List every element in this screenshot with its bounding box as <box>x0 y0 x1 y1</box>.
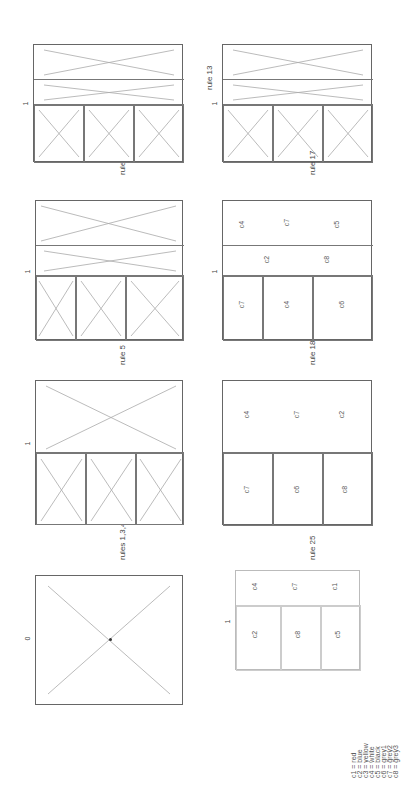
cell-label: c1 <box>331 583 338 590</box>
cell-label: c4 <box>283 301 290 308</box>
rule-label-18: rule 18 <box>308 341 317 365</box>
rule-label-17: rule 17 <box>308 151 317 175</box>
diagonals-icon <box>36 201 182 339</box>
step-label-0: 0 <box>24 637 31 641</box>
cell-label: c7 <box>283 219 290 226</box>
panel-rule-18: c4 c7 c2 c7 c6 c8 <box>222 380 372 525</box>
diagonals-icon <box>223 45 371 161</box>
step-label-5: 1 <box>211 270 218 274</box>
cell-label: c7 <box>293 411 300 418</box>
panel-rule-13 <box>222 44 372 162</box>
cell-label: c5 <box>333 221 340 228</box>
cell-label: c6 <box>293 486 300 493</box>
cell-label: c6 <box>338 301 345 308</box>
cell-label: c4 <box>243 411 250 418</box>
cell-label: c2 <box>338 411 345 418</box>
cell-label: c2 <box>251 631 258 638</box>
cell-label: c8 <box>294 631 301 638</box>
step-label-7: 1 <box>224 620 231 624</box>
rule-label-13: rule 13 <box>205 66 214 90</box>
cell-label: c7 <box>291 583 298 590</box>
step-label-1: 1 <box>24 442 31 446</box>
diagonals-icon <box>34 45 182 161</box>
step-label-3: 1 <box>22 102 29 106</box>
panel-rule-17: c4 c7 c5 c2 c8 c7 c4 c6 <box>222 200 372 340</box>
panel-step-0 <box>35 575 183 705</box>
panel-rule-8 <box>33 44 183 162</box>
cell-label: c8 <box>341 486 348 493</box>
step-label-2: 1 <box>24 270 31 274</box>
cell-label: c5 <box>334 631 341 638</box>
cell-label: c7 <box>243 486 250 493</box>
step-label-4: 1 <box>211 102 218 106</box>
rule-label-5: rule 5 <box>118 345 127 365</box>
color-legend: c1 = red c2 = blue c3 = yellow c4 = whit… <box>350 690 400 780</box>
center-point <box>109 638 112 641</box>
diagonals-icon <box>36 381 182 524</box>
legend-item: c8 = grey3 <box>392 745 399 778</box>
panel-rules-1-3-4 <box>35 380 183 525</box>
cell-label: c8 <box>323 256 330 263</box>
rule-label-25: rule 25 <box>308 536 317 560</box>
cell-label: c4 <box>251 583 258 590</box>
rule-label-1-3-4: rules 1,3,4 <box>118 523 127 560</box>
panel-rule-5 <box>35 200 183 340</box>
panel-rule-25: c4 c7 c1 c2 c8 c5 <box>235 570 360 670</box>
cell-label: c4 <box>238 221 245 228</box>
cell-label: c7 <box>238 301 245 308</box>
cell-label: c2 <box>263 256 270 263</box>
